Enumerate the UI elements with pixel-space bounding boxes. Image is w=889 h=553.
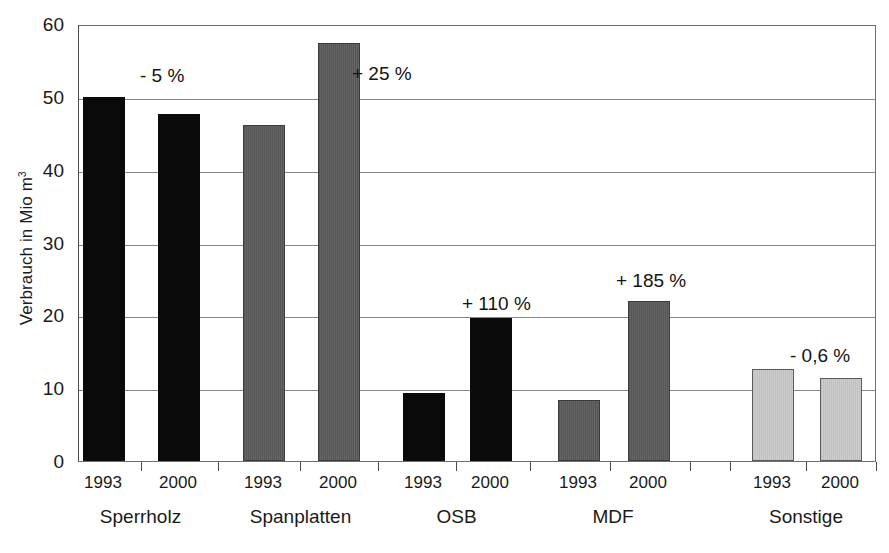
x-tick-mark: [141, 462, 142, 471]
x-tick-mark: [876, 462, 877, 471]
x-year-label-osb-2000: 2000: [455, 473, 525, 493]
x-tick-mark: [610, 462, 611, 471]
y-tick-label: 10: [8, 378, 64, 400]
bar-osb-1993: [403, 393, 445, 461]
x-category-label-sonstige: Sonstige: [706, 506, 889, 528]
bar-spanplatten-2000: [318, 43, 360, 461]
x-tick-mark: [806, 462, 807, 471]
x-tick-mark: [530, 462, 531, 471]
x-tick-mark: [730, 462, 731, 471]
bar-mdf-1993: [558, 400, 600, 461]
x-year-label-mdf-1993: 1993: [543, 473, 613, 493]
annotation-spanplatten: + 25 %: [352, 63, 412, 85]
bar-sperrholz-1993: [83, 97, 125, 461]
bar-mdf-2000: [628, 301, 670, 461]
x-year-label-sperrholz-2000: 2000: [143, 473, 213, 493]
x-year-label-spanplatten-2000: 2000: [303, 473, 373, 493]
annotation-sonstige: - 0,6 %: [790, 345, 850, 367]
x-year-label-spanplatten-1993: 1993: [228, 473, 298, 493]
x-tick-mark: [300, 462, 301, 471]
x-tick-mark: [456, 462, 457, 471]
gridline: [79, 99, 875, 100]
x-tick-mark: [218, 462, 219, 471]
annotation-sperrholz: - 5 %: [140, 65, 184, 87]
y-tick-label: 60: [8, 14, 64, 36]
bar-chart: Verbrauch in Mio m3 0102030405060 - 5 %+…: [0, 0, 889, 553]
x-year-label-sonstige-1993: 1993: [737, 473, 807, 493]
annotation-osb: + 110 %: [462, 293, 531, 315]
bar-sonstige-2000: [820, 378, 862, 461]
plot-area: [78, 25, 876, 462]
y-tick-label: 40: [8, 160, 64, 182]
x-tick-mark: [378, 462, 379, 471]
x-category-label-mdf: MDF: [513, 506, 713, 528]
y-tick-label: 20: [8, 305, 64, 327]
bar-sperrholz-2000: [158, 114, 200, 461]
bar-sonstige-1993: [752, 369, 794, 461]
y-tick-label: 30: [8, 233, 64, 255]
bar-spanplatten-1993: [243, 125, 285, 461]
y-tick-label: 0: [8, 451, 64, 473]
x-year-label-sperrholz-1993: 1993: [68, 473, 138, 493]
x-year-label-mdf-2000: 2000: [613, 473, 683, 493]
y-tick-label: 50: [8, 87, 64, 109]
bar-osb-2000: [470, 318, 512, 461]
x-tick-mark: [690, 462, 691, 471]
annotation-mdf: + 185 %: [616, 270, 686, 292]
x-year-label-sonstige-2000: 2000: [805, 473, 875, 493]
x-year-label-osb-1993: 1993: [388, 473, 458, 493]
